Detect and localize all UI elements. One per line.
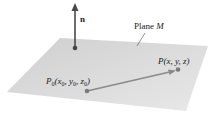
- point-p: [176, 67, 181, 72]
- normal-base-point: [73, 46, 78, 51]
- point-p0: [85, 89, 90, 94]
- point-p-label: P(x, y, z): [157, 56, 190, 66]
- plane-m: [7, 38, 208, 111]
- plane-diagram: n Plane M P(x, y, z) P0(x0, y0, z0): [0, 0, 219, 118]
- plane-label: Plane M: [134, 21, 164, 31]
- normal-arrowhead-icon: [72, 3, 79, 11]
- normal-label: n: [80, 14, 85, 24]
